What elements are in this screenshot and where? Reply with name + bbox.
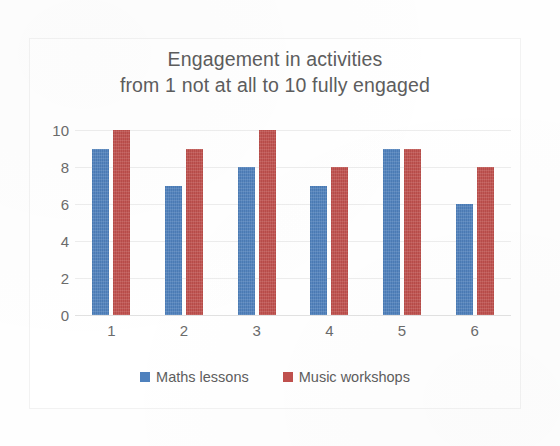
- bar-maths-lessons-5[interactable]: [383, 149, 400, 316]
- bar-groups: [75, 130, 511, 315]
- chart-screenshot: Engagement in activities from 1 not at a…: [0, 0, 560, 446]
- legend-label: Maths lessons: [156, 369, 249, 385]
- bar-maths-lessons-3[interactable]: [238, 167, 255, 315]
- legend-swatch-icon: [283, 372, 293, 382]
- bar-group: [366, 130, 439, 315]
- x-axis-tick-label: 4: [293, 322, 366, 340]
- y-axis-tick-label: 2: [61, 271, 69, 286]
- bar-music-workshops-2[interactable]: [186, 149, 203, 316]
- y-axis-tick-label: 8: [61, 160, 69, 175]
- plot-area-wrapper: 0246810 123456: [29, 130, 521, 325]
- legend-item-music-workshops[interactable]: Music workshops: [283, 369, 410, 385]
- chart-title-line-1: Engagement in activities: [29, 46, 521, 72]
- bar-music-workshops-1[interactable]: [113, 130, 130, 315]
- y-axis-tick-label: 0: [61, 308, 69, 323]
- x-axis-tick-label: 3: [220, 322, 293, 340]
- plot-area: [75, 130, 511, 315]
- bar-maths-lessons-2[interactable]: [165, 186, 182, 316]
- bar-maths-lessons-4[interactable]: [310, 186, 327, 316]
- bar-group: [148, 130, 221, 315]
- bar-maths-lessons-1[interactable]: [92, 149, 109, 316]
- x-axis-tick-label: 5: [366, 322, 439, 340]
- legend-item-maths-lessons[interactable]: Maths lessons: [140, 369, 249, 385]
- x-axis: 123456: [75, 322, 511, 340]
- x-axis-tick-label: 1: [75, 322, 148, 340]
- x-axis-tick-label: 6: [438, 322, 511, 340]
- y-axis-tick-label: 6: [61, 197, 69, 212]
- x-axis-tick-label: 2: [148, 322, 221, 340]
- bar-maths-lessons-6[interactable]: [456, 204, 473, 315]
- legend-label: Music workshops: [299, 369, 410, 385]
- axis-baseline: [75, 315, 511, 316]
- legend-swatch-icon: [140, 372, 150, 382]
- bar-group: [220, 130, 293, 315]
- y-axis-tick-label: 10: [52, 123, 69, 138]
- chart-title-line-2: from 1 not at all to 10 fully engaged: [29, 72, 521, 98]
- bar-music-workshops-4[interactable]: [331, 167, 348, 315]
- bar-music-workshops-3[interactable]: [259, 130, 276, 315]
- y-axis-tick-label: 4: [61, 234, 69, 249]
- chart-legend: Maths lessonsMusic workshops: [29, 369, 521, 385]
- bar-music-workshops-5[interactable]: [404, 149, 421, 316]
- bar-group: [438, 130, 511, 315]
- bar-music-workshops-6[interactable]: [477, 167, 494, 315]
- chart-title: Engagement in activities from 1 not at a…: [29, 46, 521, 98]
- bar-group: [293, 130, 366, 315]
- bar-group: [75, 130, 148, 315]
- y-axis: 0246810: [29, 130, 75, 315]
